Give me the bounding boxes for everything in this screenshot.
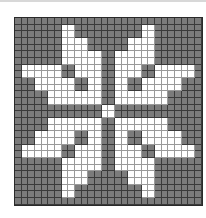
grid-cell-white: [128, 65, 135, 72]
grid-cell-white: [182, 71, 189, 78]
grid-cell-gray: [95, 191, 102, 198]
grid-cell-gray: [168, 58, 175, 65]
grid-cell-gray: [188, 131, 195, 138]
grid-cell-gray: [22, 51, 29, 58]
grid-cell-white: [62, 118, 69, 125]
grid-cell-gray: [108, 118, 115, 125]
grid-cell-white: [155, 118, 162, 125]
grid-cell-gray: [195, 111, 202, 118]
grid-cell-white: [62, 31, 69, 38]
grid-cell-gray: [188, 38, 195, 45]
grid-cell-white: [62, 185, 69, 192]
grid-cell-gray: [188, 78, 195, 85]
grid-cell-white: [48, 85, 55, 92]
grid-cell-gray: [42, 165, 49, 172]
grid-cell-white: [48, 131, 55, 138]
grid-cell-gray: [188, 58, 195, 65]
grid-cell-white: [115, 51, 122, 58]
grid-cell-gray: [168, 125, 175, 132]
grid-cell-gray: [55, 18, 62, 25]
grid-cell-white: [142, 185, 149, 192]
grid-cell-white: [108, 111, 115, 118]
grid-cell-gray: [62, 151, 69, 158]
grid-cell-white: [75, 145, 82, 152]
grid-cell-gray: [95, 45, 102, 52]
grid-cell-gray: [95, 111, 102, 118]
grid-cell-white: [55, 131, 62, 138]
grid-cell-white: [35, 85, 42, 92]
grid-cell-white: [148, 158, 155, 165]
grid-cell-white: [142, 138, 149, 145]
grid-cell-white: [148, 171, 155, 178]
grid-cell-white: [35, 145, 42, 152]
grid-cell-gray: [42, 118, 49, 125]
grid-cell-gray: [175, 38, 182, 45]
grid-cell-gray: [135, 18, 142, 25]
grid-cell-gray: [15, 85, 22, 92]
grid-cell-white: [128, 58, 135, 65]
grid-cell-white: [42, 151, 49, 158]
grid-cell-gray: [88, 191, 95, 198]
grid-cell-gray: [42, 185, 49, 192]
grid-cell-gray: [168, 165, 175, 172]
grid-cell-gray: [22, 111, 29, 118]
grid-cell-gray: [195, 25, 202, 32]
grid-cell-gray: [135, 185, 142, 192]
grid-cell-gray: [128, 25, 135, 32]
grid-cell-gray: [22, 38, 29, 45]
grid-cell-white: [48, 118, 55, 125]
grid-cell-white: [42, 138, 49, 145]
grid-cell-gray: [42, 158, 49, 165]
grid-cell-white: [148, 25, 155, 32]
grid-cell-white: [135, 51, 142, 58]
grid-cell-gray: [35, 91, 42, 98]
grid-cell-white: [128, 165, 135, 172]
grid-cell-gray: [188, 118, 195, 125]
grid-cell-white: [68, 31, 75, 38]
grid-cell-gray: [15, 111, 22, 118]
grid-cell-gray: [55, 165, 62, 172]
grid-cell-gray: [102, 191, 109, 198]
grid-cell-gray: [48, 178, 55, 185]
grid-cell-white: [155, 98, 162, 105]
grid-cell-gray: [55, 185, 62, 192]
grid-cell-white: [182, 151, 189, 158]
grid-cell-white: [55, 145, 62, 152]
grid-cell-gray: [15, 18, 22, 25]
grid-cell-gray: [155, 45, 162, 52]
snowflake-pixel-grid: [14, 17, 203, 206]
grid-cell-gray: [195, 98, 202, 105]
grid-cell-white: [82, 45, 89, 52]
grid-cell-white: [88, 65, 95, 72]
grid-cell-gray: [162, 185, 169, 192]
grid-cell-white: [142, 98, 149, 105]
grid-cell-gray: [188, 165, 195, 172]
grid-cell-gray: [102, 98, 109, 105]
grid-cell-gray: [115, 31, 122, 38]
grid-cell-gray: [95, 171, 102, 178]
grid-cell-gray: [28, 131, 35, 138]
grid-cell-white: [175, 131, 182, 138]
grid-cell-gray: [75, 191, 82, 198]
grid-cell-white: [128, 45, 135, 52]
grid-cell-gray: [162, 178, 169, 185]
grid-cell-gray: [22, 31, 29, 38]
grid-cell-white: [175, 65, 182, 72]
grid-cell-white: [48, 65, 55, 72]
grid-cell-gray: [75, 138, 82, 145]
grid-cell-gray: [182, 158, 189, 165]
grid-cell-white: [75, 118, 82, 125]
grid-cell-gray: [15, 105, 22, 112]
grid-cell-gray: [175, 178, 182, 185]
grid-cell-gray: [35, 191, 42, 198]
grid-cell-gray: [28, 98, 35, 105]
grid-cell-white: [88, 98, 95, 105]
grid-cell-gray: [168, 178, 175, 185]
grid-cell-gray: [28, 25, 35, 32]
grid-cell-gray: [148, 145, 155, 152]
grid-cell-white: [162, 151, 169, 158]
grid-cell-white: [122, 78, 129, 85]
grid-cell-white: [35, 138, 42, 145]
grid-cell-white: [48, 91, 55, 98]
grid-cell-gray: [162, 105, 169, 112]
